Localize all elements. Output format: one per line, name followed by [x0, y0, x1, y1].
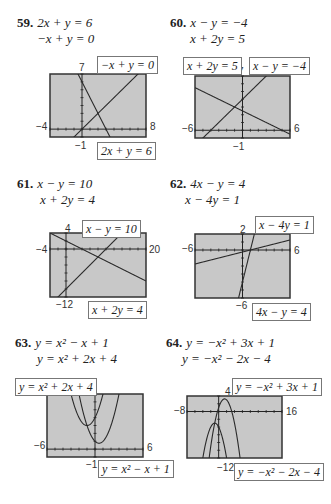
graph-64-screen — [187, 396, 282, 458]
problem-number: 64. — [166, 335, 182, 350]
equation-2: −x + y = 0 — [17, 31, 94, 47]
xmax-label: 6 — [294, 123, 300, 134]
xmax-label: 8 — [150, 121, 156, 132]
callout-label: y = −x² − 2x − 4 — [234, 463, 324, 481]
callout-label: y = x² − x + 1 — [98, 460, 174, 478]
xmin-label: −4 — [36, 121, 47, 132]
callout-label: 2x + y = 6 — [97, 142, 156, 160]
callout-label: y = x² + 2x + 4 — [15, 378, 97, 396]
xmax-label: 20 — [149, 244, 160, 255]
equation-2: y = −x² − 2x − 4 — [166, 351, 275, 367]
graph-62 — [195, 234, 290, 298]
callout-label: −x + y = 0 — [97, 56, 158, 74]
callout-label: x + 2y = 5 — [183, 57, 242, 75]
graph-59 — [50, 74, 146, 137]
callout-label: 4x − y = 4 — [252, 303, 311, 321]
ymax-label: 7 — [79, 62, 85, 73]
problem-59-equations: 59.2x + y = 6 −x + y = 0 — [17, 15, 94, 47]
xmin-label: −6 — [182, 123, 193, 134]
xmin-label: −6 — [182, 243, 193, 254]
problem-number: 61. — [17, 176, 33, 191]
ymin-label: −6 — [236, 300, 247, 311]
graph-61-screen — [50, 233, 146, 297]
xmax-label: 6 — [147, 442, 153, 453]
graph-61 — [50, 233, 146, 297]
equation-2: y = x² + 2x + 4 — [15, 351, 117, 367]
graph-60-screen — [195, 76, 290, 138]
ymin-label: −12 — [217, 462, 234, 473]
graph-60 — [195, 76, 290, 138]
equation-1: y = x² − x + 1 — [35, 335, 109, 350]
xmin-label: −4 — [36, 244, 47, 255]
equation-1: y = −x² + 3x + 1 — [186, 335, 275, 350]
ymax-label: 4 — [225, 386, 231, 397]
ymin-label: −1 — [86, 459, 97, 470]
graph-63-screen — [47, 394, 143, 457]
problem-number: 63. — [15, 335, 31, 350]
equation-1: x − y = 10 — [37, 176, 92, 191]
ymax-label: 2 — [240, 224, 246, 235]
equation-1: 4x − y = 4 — [190, 176, 245, 191]
problem-60-equations: 60.x − y = −4 x + 2y = 5 — [170, 15, 248, 47]
problem-63-equations: 63.y = x² − x + 1 y = x² + 2x + 4 — [15, 335, 117, 367]
equation-1: x − y = −4 — [190, 15, 247, 30]
graph-64 — [187, 396, 282, 458]
graph-63 — [47, 394, 143, 457]
xmax-label: 6 — [294, 245, 300, 256]
xmin-label: −6 — [34, 440, 45, 451]
problem-number: 59. — [17, 15, 33, 30]
xmax-label: 16 — [286, 406, 297, 417]
ymin-label: −1 — [75, 140, 86, 151]
ymax-label: 4 — [65, 223, 71, 234]
callout-label: x + 2y = 4 — [88, 301, 147, 319]
callout-label: x − y = 10 — [82, 220, 141, 238]
xmin-label: −8 — [174, 405, 185, 416]
graph-62-screen — [195, 234, 290, 298]
callout-label: x − y = −4 — [249, 57, 310, 75]
problem-number: 60. — [170, 15, 186, 30]
problem-62-equations: 62.4x − y = 4 x − 4y = 1 — [170, 176, 245, 208]
problem-number: 62. — [170, 176, 186, 191]
equation-2: x − 4y = 1 — [170, 192, 245, 208]
callout-label: y = −x² + 3x + 1 — [232, 378, 322, 396]
equation-2: x + 2y = 4 — [17, 192, 95, 208]
ymin-label: −12 — [56, 299, 73, 310]
problem-61-equations: 61.x − y = 10 x + 2y = 4 — [17, 176, 95, 208]
callout-label: x − 4y = 1 — [255, 216, 314, 234]
ymin-label: −1 — [233, 141, 244, 152]
graph-59-screen — [50, 74, 146, 137]
equation-1: 2x + y = 6 — [37, 15, 92, 30]
problem-64-equations: 64.y = −x² + 3x + 1 y = −x² − 2x − 4 — [166, 335, 275, 367]
equation-2: x + 2y = 5 — [170, 31, 248, 47]
